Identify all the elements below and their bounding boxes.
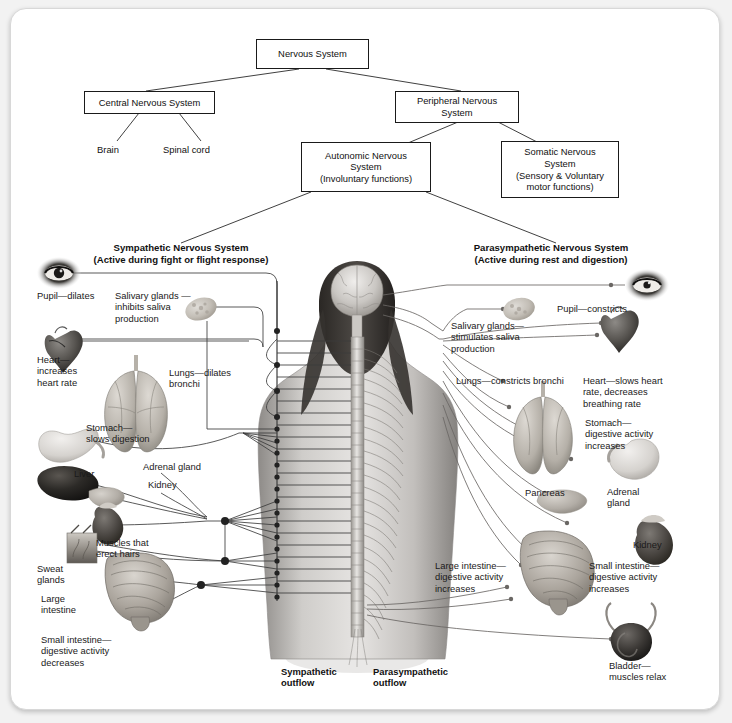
label-parasympathetic-kidney: Kidney xyxy=(633,539,662,550)
node-autonomic-nervous-system: Autonomic Nervous System (Involuntary fu… xyxy=(301,142,431,192)
label-parasympathetic-bladder: Bladder— muscles relax xyxy=(609,660,666,683)
node-central-nervous-system: Central Nervous System xyxy=(84,91,215,114)
node-nervous-system: Nervous System xyxy=(256,39,369,69)
caption-sympathetic-outflow: Sympathetic outflow xyxy=(281,666,337,689)
label-sympathetic-stomach: Stomach— slows digestion xyxy=(86,422,150,445)
label-parasympathetic-stomach: Stomach— digestive activity increases xyxy=(585,417,653,451)
figure-stage: Nervous System Central Nervous System Pe… xyxy=(11,9,719,709)
caption-parasympathetic-outflow: Parasympathetic outflow xyxy=(373,666,448,689)
node-somatic-nervous-system: Somatic Nervous System (Sensory & Volunt… xyxy=(501,141,619,198)
figure-frame: Nervous System Central Nervous System Pe… xyxy=(10,8,720,710)
label-parasympathetic-pancreas: Pancreas xyxy=(525,487,565,498)
label-sympathetic-adrenal-gland: Adrenal gland xyxy=(143,461,201,472)
heading-sympathetic-nervous-system: Sympathetic Nervous System (Active durin… xyxy=(66,242,296,266)
eye-illustration-right xyxy=(625,269,669,301)
label-sympathetic-large-intestine: Large intestine xyxy=(41,593,76,616)
label-parasympathetic-heart: Heart—slows heart rate, decreases breath… xyxy=(583,375,663,409)
node-brain: Brain xyxy=(97,144,119,155)
label-parasympathetic-large-intestine: Large intestine— digestive activity incr… xyxy=(435,560,506,594)
lungs-illustration-right xyxy=(514,381,573,474)
salivary-gland-illustration-right xyxy=(501,295,537,323)
diagram-artwork xyxy=(11,9,719,709)
sweat-gland-illustration-left xyxy=(67,525,97,563)
label-parasympathetic-lungs: Lungs—constricts bronchi xyxy=(456,375,564,386)
label-sympathetic-pupil: Pupil—dilates xyxy=(37,290,94,301)
label-sympathetic-sweat-glands: Sweat glands xyxy=(37,563,65,586)
label-parasympathetic-pupil: Pupil—constricts xyxy=(557,303,627,314)
heading-parasympathetic-nervous-system: Parasympathetic Nervous System (Active d… xyxy=(431,242,671,266)
label-sympathetic-lungs: Lungs—dilates bronchi xyxy=(169,367,231,390)
label-sympathetic-small-intestine: Small intestine— digestive activity decr… xyxy=(41,634,111,668)
bladder-illustration-right xyxy=(606,603,655,661)
node-peripheral-nervous-system: Peripheral Nervous System xyxy=(395,91,519,123)
human-figure-illustration xyxy=(258,261,458,673)
label-sympathetic-heart: Heart— increases heart rate xyxy=(37,354,77,388)
label-parasympathetic-small-intestine: Small intestine— digestive activity incr… xyxy=(589,560,659,594)
node-spinal-cord: Spinal cord xyxy=(163,144,210,155)
label-sympathetic-kidney: Kidney xyxy=(148,479,177,490)
label-sympathetic-hair-muscles: Muscles that erect hairs xyxy=(96,537,149,560)
intestines-illustration-left xyxy=(105,553,174,631)
label-parasympathetic-salivary-glands: Salivary glands— stimulates saliva produ… xyxy=(451,320,524,354)
adrenal-gland-illustration-right xyxy=(641,515,665,523)
intestines-illustration-right xyxy=(520,531,594,615)
label-sympathetic-liver: Liver xyxy=(74,468,94,479)
label-sympathetic-salivary-glands: Salivary glands — inhibits saliva produc… xyxy=(115,290,191,324)
label-parasympathetic-adrenal-gland: Adrenal gland xyxy=(607,486,639,509)
